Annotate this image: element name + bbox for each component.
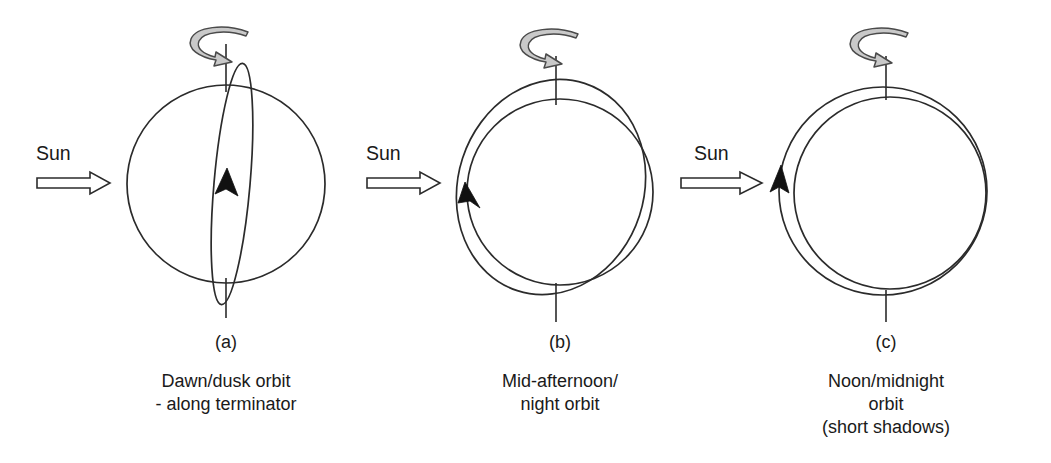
panel-a-caption-line-1: Dawn/dusk orbit — [161, 371, 290, 391]
panel-c-caption-line-2: orbit — [868, 394, 903, 414]
panel-b-caption-line-2: night orbit — [520, 394, 599, 414]
panel-b-caption-line-1: Mid-afternoon/ — [502, 371, 618, 391]
panel-a-caption-line-2: - along terminator — [155, 394, 296, 414]
panel-a-sun-direction: Sun — [36, 142, 110, 194]
sun-direction-arrow — [681, 172, 762, 194]
figure-root: Sun (a) Dawn/dusk orbit - along terminat… — [0, 0, 1051, 463]
panel-b-sun-direction: Sun — [366, 142, 440, 194]
panel-b-orbit-direction-arrow — [458, 182, 480, 208]
panel-c-sun-label: Sun — [694, 142, 729, 164]
figure-canvas: Sun (a) Dawn/dusk orbit - along terminat… — [0, 0, 1051, 463]
earth-rotation-arrow — [520, 29, 578, 68]
panel-c-sun-direction: Sun — [681, 142, 762, 194]
panel-a-orbit-direction-arrow — [215, 168, 238, 196]
panel-a: Sun (a) Dawn/dusk orbit - along terminat… — [36, 27, 325, 414]
panel-c-letter: (c) — [876, 332, 897, 352]
sun-direction-arrow — [37, 172, 110, 194]
panel-a-letter: (a) — [215, 332, 237, 352]
sun-direction-arrow — [367, 172, 440, 194]
panel-a-sun-label: Sun — [36, 142, 71, 164]
panel-c: Sun (c) Noon/midnight orbit (short shado… — [681, 28, 987, 437]
earth-rotation-arrow — [190, 27, 248, 66]
panel-c-caption-line-1: Noon/midnight — [828, 371, 944, 391]
panel-b-globe — [467, 99, 653, 285]
earth-rotation-arrow — [850, 28, 908, 67]
panel-b: Sun (b) Mid-afternoon/ night orbit — [366, 29, 673, 414]
panel-c-globe — [794, 97, 986, 289]
panel-b-sun-label: Sun — [366, 142, 401, 164]
panel-b-letter: (b) — [549, 332, 571, 352]
panel-c-caption-line-3: (short shadows) — [822, 417, 950, 437]
